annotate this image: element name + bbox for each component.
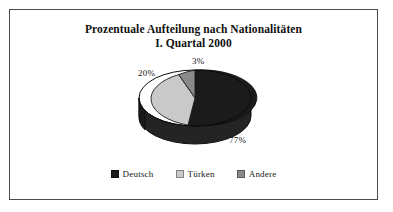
legend-label-deutsch: Deutsch <box>123 169 154 179</box>
legend-item-tuerken[interactable]: Türken <box>176 169 215 179</box>
figure-canvas: Prozentuale Aufteilung nach Nationalität… <box>0 0 393 212</box>
data-label-deutsch: 77% <box>229 135 246 145</box>
chart-legend: Deutsch Türken Andere <box>10 169 377 179</box>
legend-swatch-icon-andere <box>237 170 245 178</box>
chart-frame: Prozentuale Aufteilung nach Nationalität… <box>9 9 378 200</box>
legend-item-deutsch[interactable]: Deutsch <box>111 169 154 179</box>
data-label-tuerken: 20% <box>138 68 155 78</box>
data-label-andere: 3% <box>192 56 204 66</box>
legend-swatch-icon-deutsch <box>111 170 119 178</box>
plot-area: 20% 3% 77% <box>10 50 377 155</box>
chart-title-line-1: Prozentuale Aufteilung nach Nationalität… <box>10 22 377 36</box>
chart-title: Prozentuale Aufteilung nach Nationalität… <box>10 22 377 50</box>
legend-label-tuerken: Türken <box>188 169 215 179</box>
legend-label-andere: Andere <box>249 169 277 179</box>
chart-title-line-2: I. Quartal 2000 <box>10 36 377 50</box>
legend-item-andere[interactable]: Andere <box>237 169 277 179</box>
pie-top-face <box>151 70 257 126</box>
legend-swatch-icon-tuerken <box>176 170 184 178</box>
